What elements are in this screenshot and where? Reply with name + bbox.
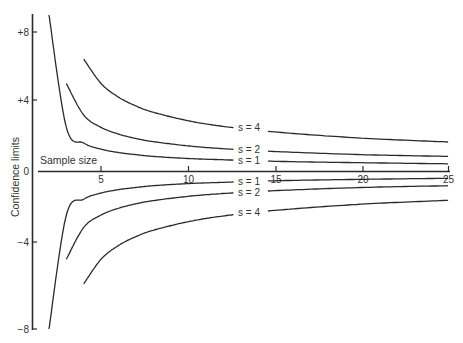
label-upper-s1: s = 1 xyxy=(238,155,260,166)
curve-lower-s2 xyxy=(268,186,448,191)
curve-lower-s1 xyxy=(49,182,234,329)
x-tick-labels: 5 10 15 20 25 xyxy=(98,174,454,185)
label-upper-s4: s = 4 xyxy=(238,122,260,133)
curve-upper-s2 xyxy=(66,84,233,150)
x-ticks xyxy=(101,166,449,171)
svg-text:0: 0 xyxy=(23,166,29,177)
curve-lower-s4 xyxy=(268,200,448,211)
label-lower-s1: s = 1 xyxy=(238,176,260,187)
series-labels: s = 4 s = 2 s = 1 s = 1 s = 2 s = 4 xyxy=(238,122,260,218)
svg-text:25: 25 xyxy=(443,174,455,185)
x-axis-title: Sample size xyxy=(40,154,97,166)
svg-text:−8: −8 xyxy=(18,324,30,335)
confidence-limits-chart: +8 +4 0 −4 −8 5 10 15 20 25 Sample size … xyxy=(0,0,463,343)
curve-upper-s1 xyxy=(268,161,448,164)
curve-upper-s2 xyxy=(268,151,448,156)
svg-text:15: 15 xyxy=(270,174,282,185)
svg-text:+4: +4 xyxy=(18,95,30,106)
svg-text:+8: +8 xyxy=(18,27,30,38)
label-upper-s2: s = 2 xyxy=(238,144,260,155)
label-lower-s2: s = 2 xyxy=(238,187,260,198)
curve-lower-s4 xyxy=(84,215,234,284)
curve-lower-s2 xyxy=(66,193,233,259)
curve-upper-s1 xyxy=(49,15,234,160)
y-axis-title: Confidence limits xyxy=(9,137,21,217)
curve-upper-s4 xyxy=(84,59,234,128)
svg-text:−4: −4 xyxy=(18,237,30,248)
label-lower-s4: s = 4 xyxy=(238,207,260,218)
svg-text:5: 5 xyxy=(98,174,104,185)
curve-upper-s4 xyxy=(268,131,448,142)
